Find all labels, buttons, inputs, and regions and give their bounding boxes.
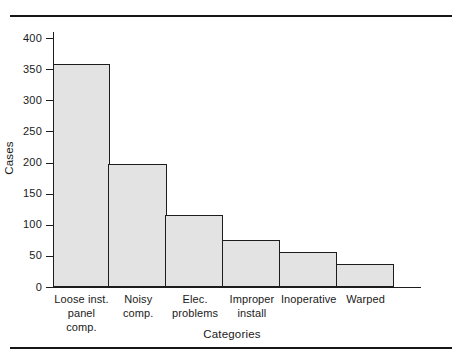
y-tick-label: 50: [2, 250, 42, 261]
y-axis-label: Cases: [3, 128, 15, 188]
category-label: Noisycomp.: [110, 292, 167, 320]
bar: [165, 215, 223, 287]
category-label: Improperinstall: [224, 292, 281, 320]
y-tick-label: 0: [2, 282, 42, 293]
y-tick-label: 400: [2, 33, 42, 44]
bar: [53, 64, 110, 287]
category-label: Loose inst.panel comp.: [53, 292, 110, 334]
y-tick-label: 150: [2, 188, 42, 199]
bar: [108, 164, 166, 287]
category-label-line1: Elec.: [183, 293, 208, 305]
category-label-line1: Improper: [230, 293, 275, 305]
y-tick-label: 100: [2, 219, 42, 230]
bar-series: [53, 32, 394, 287]
category-label: Inoperative: [280, 292, 337, 306]
category-label-line2: install: [224, 306, 281, 320]
category-label-line1: Inoperative: [281, 293, 337, 305]
category-axis-labels: Loose inst.panel comp.Noisycomp.Elec.pro…: [53, 292, 394, 326]
category-label-line2: problems: [167, 306, 224, 320]
y-tick-mark: [46, 287, 54, 288]
bar: [279, 252, 337, 287]
bar: [336, 264, 394, 287]
y-tick-label: 300: [2, 95, 42, 106]
pareto-bar-chart: 050100150200250300350400 Cases Categorie…: [0, 0, 464, 356]
category-label: Warped: [337, 292, 394, 306]
category-label: Elec.problems: [167, 292, 224, 320]
category-label-line2: panel comp.: [53, 306, 110, 334]
category-label-line1: Warped: [346, 293, 385, 305]
category-label-line1: Noisy: [124, 293, 152, 305]
y-tick-label: 350: [2, 64, 42, 75]
category-label-line2: comp.: [110, 306, 167, 320]
category-label-line1: Loose inst.: [54, 293, 108, 305]
x-axis-line: [53, 287, 421, 288]
bar: [222, 240, 280, 287]
